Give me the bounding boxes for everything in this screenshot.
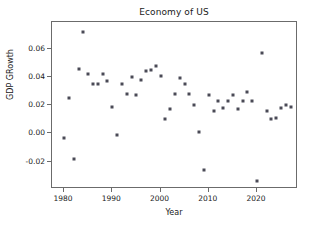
data-point xyxy=(92,83,95,86)
data-point xyxy=(174,92,177,95)
x-tick-mark xyxy=(160,188,161,192)
y-tick-label: 0.04 xyxy=(28,71,45,80)
x-axis-label: Year xyxy=(51,208,297,217)
data-point xyxy=(135,94,138,97)
data-point xyxy=(63,136,66,139)
y-tick-label: -0.02 xyxy=(26,156,45,165)
data-point xyxy=(72,157,75,160)
x-tick-mark xyxy=(256,188,257,192)
y-tick-label: 0.00 xyxy=(28,128,45,137)
data-point xyxy=(111,105,114,108)
data-point xyxy=(212,109,215,112)
y-axis-label: GDP GRowth xyxy=(6,40,15,110)
x-tick-label: 1990 xyxy=(102,194,121,203)
y-tick-label: 0.06 xyxy=(28,43,45,52)
data-point xyxy=(236,108,239,111)
x-tick-mark xyxy=(63,188,64,192)
data-point xyxy=(96,83,99,86)
data-point xyxy=(207,94,210,97)
data-point xyxy=(154,64,157,67)
data-point xyxy=(145,70,148,73)
data-point xyxy=(260,52,263,55)
data-point xyxy=(125,92,128,95)
data-point xyxy=(241,99,244,102)
data-point xyxy=(280,106,283,109)
data-point xyxy=(198,130,201,133)
data-point xyxy=(251,99,254,102)
x-tick-label: 2000 xyxy=(150,194,169,203)
data-point xyxy=(270,118,273,121)
data-point xyxy=(67,97,70,100)
data-point xyxy=(256,180,259,183)
data-point xyxy=(120,83,123,86)
data-point xyxy=(87,73,90,76)
data-point xyxy=(178,77,181,80)
data-point xyxy=(227,99,230,102)
data-point xyxy=(77,67,80,70)
data-point xyxy=(217,99,220,102)
x-tick-label: 2020 xyxy=(246,194,265,203)
x-tick-label: 1980 xyxy=(54,194,73,203)
data-point xyxy=(164,118,167,121)
data-point xyxy=(265,109,268,112)
data-point xyxy=(231,94,234,97)
data-point xyxy=(130,75,133,78)
data-point xyxy=(202,168,205,171)
data-point xyxy=(222,106,225,109)
plot-area xyxy=(51,21,297,188)
data-point xyxy=(183,83,186,86)
data-point xyxy=(188,92,191,95)
data-point xyxy=(116,133,119,136)
y-tick-label: 0.02 xyxy=(28,100,45,109)
page-title: Economy of US xyxy=(51,7,297,17)
x-tick-mark xyxy=(208,188,209,192)
scatter-chart-figure: Economy of US GDP GRowth Year -0.020.000… xyxy=(0,0,315,230)
data-point xyxy=(101,73,104,76)
data-point xyxy=(289,105,292,108)
data-point xyxy=(169,108,172,111)
x-tick-label: 2010 xyxy=(198,194,217,203)
data-point xyxy=(82,30,85,33)
data-point xyxy=(193,104,196,107)
data-point xyxy=(275,116,278,119)
x-tick-mark xyxy=(111,188,112,192)
data-point xyxy=(246,91,249,94)
data-point xyxy=(140,78,143,81)
data-point xyxy=(106,80,109,83)
data-point xyxy=(159,74,162,77)
data-point xyxy=(149,68,152,71)
data-point xyxy=(284,104,287,107)
